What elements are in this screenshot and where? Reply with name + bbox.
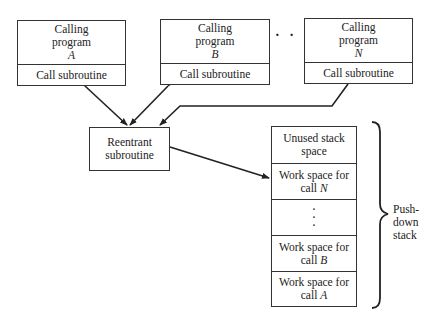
program-n-label-2: program xyxy=(305,34,412,47)
cell-text: space xyxy=(272,145,356,158)
arrow-subroutine-stack xyxy=(170,147,269,178)
label-line: Push- xyxy=(393,203,419,216)
subroutine-label-1: Reentrant xyxy=(90,136,169,149)
stack-cell-call-b: Work space for call B xyxy=(272,235,356,271)
program-b-name: B xyxy=(161,48,269,61)
program-n-name: N xyxy=(305,47,412,60)
label-line: down xyxy=(393,216,419,229)
label-line: stack xyxy=(393,229,419,242)
program-b-call: Call subroutine xyxy=(161,63,269,84)
program-a-label-1: Calling xyxy=(18,23,125,36)
push-down-stack: Unused stack space Work space for call N… xyxy=(271,126,357,307)
cell-var: A xyxy=(320,289,327,301)
cell-text: Work space for xyxy=(272,241,356,254)
cell-text: call xyxy=(300,182,319,194)
stack-cell-call-n: Work space for call N xyxy=(272,163,356,199)
cell-text: Work space for xyxy=(272,276,356,289)
program-b-label-1: Calling xyxy=(161,22,269,35)
program-a-label-2: program xyxy=(18,36,125,49)
arrow-n-subroutine xyxy=(160,84,348,125)
cell-var: N xyxy=(320,182,328,194)
calling-program-b: Calling program B Call subroutine xyxy=(160,19,270,85)
dot: · xyxy=(272,222,356,230)
cell-var: B xyxy=(320,254,327,266)
brace-icon xyxy=(372,122,388,308)
arrow-b-subroutine xyxy=(130,86,168,125)
program-b-label-2: program xyxy=(161,35,269,48)
cell-text: call A xyxy=(272,289,356,302)
stack-cell-unused: Unused stack space xyxy=(272,127,356,163)
push-down-stack-label: Push- down stack xyxy=(393,203,419,242)
cell-text: Unused stack xyxy=(272,132,356,145)
program-a-name: A xyxy=(18,49,125,62)
program-a-call: Call subroutine xyxy=(18,64,125,85)
stack-cell-ellipsis: · · · xyxy=(272,199,356,235)
cell-text: Work space for xyxy=(272,169,356,182)
program-n-call: Call subroutine xyxy=(305,62,412,83)
calling-program-n: Calling program N Call subroutine xyxy=(304,18,413,84)
stack-cell-call-a: Work space for call A xyxy=(272,271,356,306)
calling-program-a: Calling program A Call subroutine xyxy=(17,20,126,86)
cell-text: call N xyxy=(272,182,356,195)
cell-text: call xyxy=(301,289,320,301)
program-n-label-1: Calling xyxy=(305,21,412,34)
arrow-a-subroutine xyxy=(85,86,127,125)
subroutine-label-2: subroutine xyxy=(90,149,169,162)
cell-text: call xyxy=(301,254,320,266)
reentrant-subroutine: Reentrant subroutine xyxy=(89,127,170,171)
cell-text: call B xyxy=(272,254,356,267)
